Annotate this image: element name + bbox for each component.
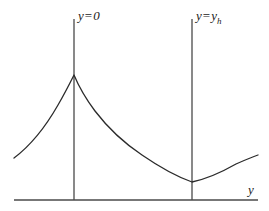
label-vline-yh: y=yh: [196, 9, 221, 26]
plot-canvas: [0, 0, 269, 211]
label-vline-y0: y=0: [78, 9, 100, 22]
label-y0-operator: =: [84, 8, 93, 23]
label-y0-value: 0: [93, 8, 100, 23]
label-yh-operator: =: [202, 8, 211, 23]
label-yh-subscript: h: [217, 16, 222, 26]
label-y0-var: y: [78, 8, 84, 23]
figure-container: y=0 y=yh y: [0, 0, 269, 211]
label-horizontal-axis: y: [248, 183, 254, 196]
potential-curve: [14, 75, 258, 182]
label-yh-var: y: [196, 8, 202, 23]
